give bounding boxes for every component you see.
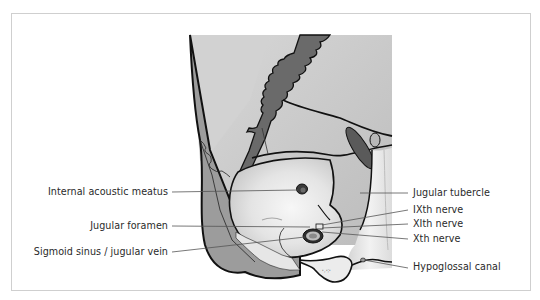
label-xith-nerve: XIth nerve [413, 218, 463, 230]
label-internal-acoustic-meatus: Internal acoustic meatus [20, 186, 168, 198]
label-xth-nerve: Xth nerve [413, 233, 460, 245]
label-sigmoid-sinus-jugular-vein: Sigmoid sinus / jugular vein [20, 246, 168, 258]
label-jugular-foramen: Jugular foramen [20, 220, 168, 232]
occipital-condyle: ꞏ,ꞏ;ꞏ [300, 256, 392, 282]
label-ixth-nerve: IXth nerve [413, 204, 463, 216]
svg-text:ꞏ,ꞏ;ꞏ: ꞏ,ꞏ;ꞏ [322, 267, 331, 273]
label-hypoglossal-canal: Hypoglossal canal [413, 261, 501, 273]
internal-acoustic-meatus-hole [297, 184, 308, 194]
label-jugular-tubercle: Jugular tubercle [413, 187, 490, 199]
jugular-process [370, 133, 380, 147]
